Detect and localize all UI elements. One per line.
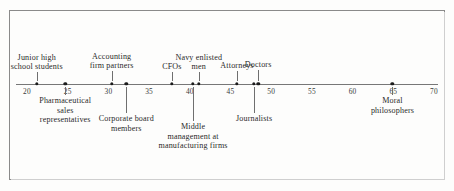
callout-line: Junior high [18, 53, 56, 62]
callout-label: Middlemanagement atmanufacturing firms [158, 122, 227, 151]
leader-line [65, 87, 66, 95]
axis-tick-35: 35 [145, 87, 153, 96]
callout-label: Junior highschool students [11, 53, 63, 72]
callout-line: Middle [181, 122, 205, 131]
leader-line [258, 70, 259, 81]
leader-line [126, 87, 127, 113]
callout-line: representatives [40, 115, 91, 124]
leader-line [37, 72, 38, 81]
axis-tick-60: 60 [349, 87, 357, 96]
callout-line: sales [57, 106, 73, 115]
callout-label: Accountingfirm partners [90, 52, 134, 71]
leader-line [392, 87, 393, 95]
callout-line: manufacturing firms [158, 141, 227, 150]
axis-tick-50: 50 [267, 87, 275, 96]
callout-label: Navy enlistedmen [175, 53, 222, 72]
leader-line [237, 71, 238, 81]
axis-tick-70: 70 [430, 87, 438, 96]
leader-line [199, 72, 200, 81]
callout-line: Journalists [236, 114, 272, 123]
callout-line: Pharmaceutical [39, 96, 91, 105]
axis-tick-45: 45 [227, 87, 235, 96]
number-line-figure: 2025303540455055606570 Junior highschool… [0, 0, 454, 191]
axis-tick-30: 30 [104, 87, 112, 96]
callout-line: Accounting [92, 52, 131, 61]
leader-line [172, 72, 173, 81]
callout-line: men [192, 62, 206, 71]
callout-label: Corporate boardmembers [99, 114, 154, 133]
callout-line: philosophers [371, 106, 414, 115]
leader-line [254, 87, 255, 113]
callout-line: management at [167, 132, 218, 141]
callout-label: Journalists [236, 114, 272, 124]
axis-tick-20: 20 [23, 87, 31, 96]
callout-line: Corporate board [99, 114, 154, 123]
callout-line: Doctors [245, 60, 272, 69]
callout-label: Pharmaceuticalsalesrepresentatives [39, 96, 91, 125]
callout-line: school students [11, 62, 63, 71]
number-line-axis [16, 84, 438, 85]
callout-line: firm partners [90, 61, 134, 70]
leader-line [112, 71, 113, 81]
axis-tick-55: 55 [308, 87, 316, 96]
leader-line [193, 87, 194, 121]
callout-line: Navy enlisted [175, 53, 222, 62]
callout-label: Moralphilosophers [371, 96, 414, 115]
callout-line: Moral [382, 96, 403, 105]
callout-line: members [111, 124, 142, 133]
callout-label: Doctors [245, 60, 272, 70]
